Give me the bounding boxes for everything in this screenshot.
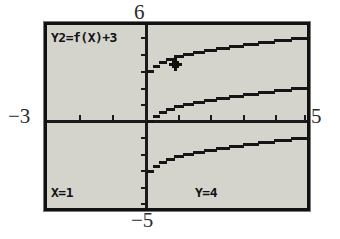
axis-label-xmin: −3 xyxy=(8,106,30,127)
axis-label-ymax: 6 xyxy=(134,2,145,23)
calculator-screen[interactable]: Y2=f(X)+3 X=1 Y=4 xyxy=(47,25,307,208)
y-axis xyxy=(145,25,148,208)
calculator-bezel: Y2=f(X)+3 X=1 Y=4 xyxy=(44,22,310,211)
axis-label-xmax: 5 xyxy=(311,106,322,127)
trace-cursor-icon[interactable] xyxy=(169,58,182,71)
trace-y-value: Y=4 xyxy=(195,186,217,199)
screenshot-root: 6 −3 5 −5 xyxy=(0,0,340,239)
trace-x-value: X=1 xyxy=(51,186,73,199)
axis-label-ymin: −5 xyxy=(131,210,153,231)
equation-label: Y2=f(X)+3 xyxy=(51,31,117,44)
x-axis xyxy=(47,120,307,123)
